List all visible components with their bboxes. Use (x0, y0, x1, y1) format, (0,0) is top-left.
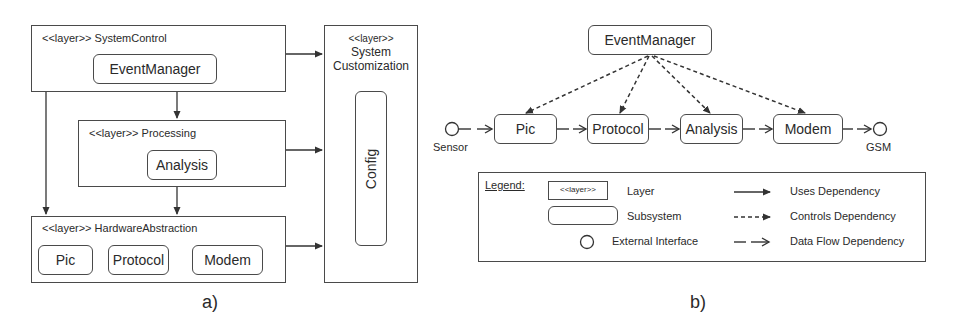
subsystem-protocol-a: Protocol (108, 245, 169, 275)
layer-hardware-abstraction-title: <<layer>> HardwareAbstraction (42, 222, 197, 234)
subsystem-analysis-a: Analysis (147, 150, 217, 180)
controls-arrows (526, 56, 805, 113)
gsm-label: GSM (866, 141, 891, 153)
layer-system-control-title: <<layer>> SystemControl (42, 32, 167, 44)
caption-b: b) (690, 292, 706, 313)
caption-a: a) (202, 292, 218, 313)
sensor-label: Sensor (433, 141, 468, 153)
legend-label-layer: Layer (627, 185, 655, 197)
subsystem-modem-a: Modem (192, 245, 263, 275)
legend-title: Legend: (485, 179, 525, 191)
gsm-interface-icon (874, 123, 887, 136)
legend-label-dataflow: Data Flow Dependency (790, 235, 904, 247)
subsystem-protocol-b: Protocol (587, 114, 649, 144)
layer-system-customization-title-2: Customization (325, 59, 417, 73)
legend-subsystem-sample (548, 206, 618, 225)
subsystem-eventmanager-b: EventManager (588, 25, 712, 55)
subsystem-pic-a: Pic (38, 245, 93, 275)
subsystem-analysis-b: Analysis (680, 114, 743, 144)
subsystem-modem-b: Modem (773, 114, 843, 144)
legend-layer-sample: <<layer>> (548, 181, 608, 200)
legend-label-controls: Controls Dependency (790, 210, 896, 222)
subsystem-pic-b: Pic (494, 114, 557, 144)
legend-label-external-interface: External Interface (612, 235, 698, 247)
legend-layer-sample-text: <<layer>> (549, 185, 607, 194)
sensor-interface-icon (446, 123, 459, 136)
layer-system-customization-title-1: System (325, 45, 417, 59)
subsystem-config-label: Config (363, 148, 379, 188)
subsystem-config: Config (355, 91, 387, 246)
layer-processing-title: <<layer>> Processing (89, 127, 196, 139)
layer-system-customization-stereotype: <<layer>> (325, 33, 417, 44)
legend-label-subsystem: Subsystem (627, 210, 681, 222)
subsystem-eventmanager-a: EventManager (93, 54, 217, 84)
legend-label-uses: Uses Dependency (790, 185, 880, 197)
